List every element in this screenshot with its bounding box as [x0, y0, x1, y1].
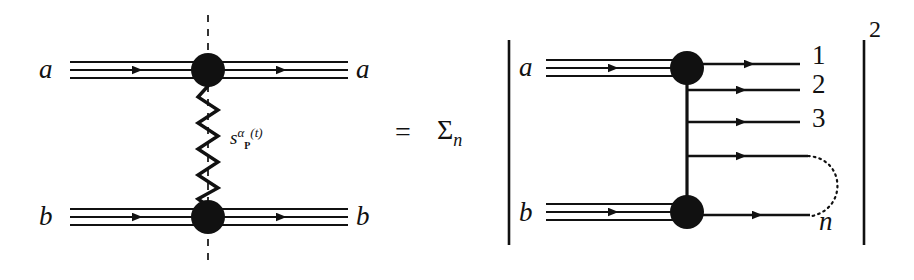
label-a-outgoing-left: a: [356, 56, 370, 83]
produced-label-2: 2: [812, 71, 826, 98]
vertex-blob-bottom-left: [191, 200, 225, 234]
produced-label-n: n: [819, 208, 833, 235]
vertex-blob-top-left: [191, 53, 225, 87]
regge-exponent-alpha: α: [237, 125, 244, 140]
produced-label-1: 1: [812, 42, 826, 69]
feynman-diagram-figure: a a b b sαP(t) = Σn a b 1 2 3 n 2: [0, 0, 914, 280]
label-b-outgoing-left: b: [356, 203, 370, 230]
produced-label-3: 3: [812, 105, 826, 132]
vertex-blob-top-right: [670, 51, 704, 85]
line-b-incoming: [70, 209, 205, 225]
regge-exponent-argument: (t): [250, 125, 262, 140]
pomeron-trajectory-label: sαP(t): [230, 126, 263, 151]
sum-subscript-n: n: [453, 130, 462, 150]
label-a-incoming-right: a: [519, 54, 533, 81]
sum-over-n: Σn: [437, 116, 462, 149]
line-b-outgoing: [212, 209, 348, 225]
right-diagram-group: [509, 40, 864, 245]
left-diagram-group: [70, 15, 348, 262]
right-line-b-incoming: [546, 204, 685, 220]
vertex-blob-bottom-right: [670, 195, 704, 229]
line-a-incoming: [70, 62, 205, 78]
label-b-incoming-right: b: [519, 199, 533, 226]
regge-exponent-subscript-pomeron: P: [244, 140, 250, 151]
equals-sign: =: [395, 118, 411, 146]
right-line-a-incoming: [546, 60, 685, 76]
modulus-squared-exponent: 2: [869, 17, 881, 41]
line-a-outgoing: [212, 62, 348, 78]
label-a-incoming-left: a: [39, 56, 53, 83]
sum-sigma-glyph: Σ: [437, 114, 453, 145]
label-b-incoming-left: b: [39, 203, 53, 230]
